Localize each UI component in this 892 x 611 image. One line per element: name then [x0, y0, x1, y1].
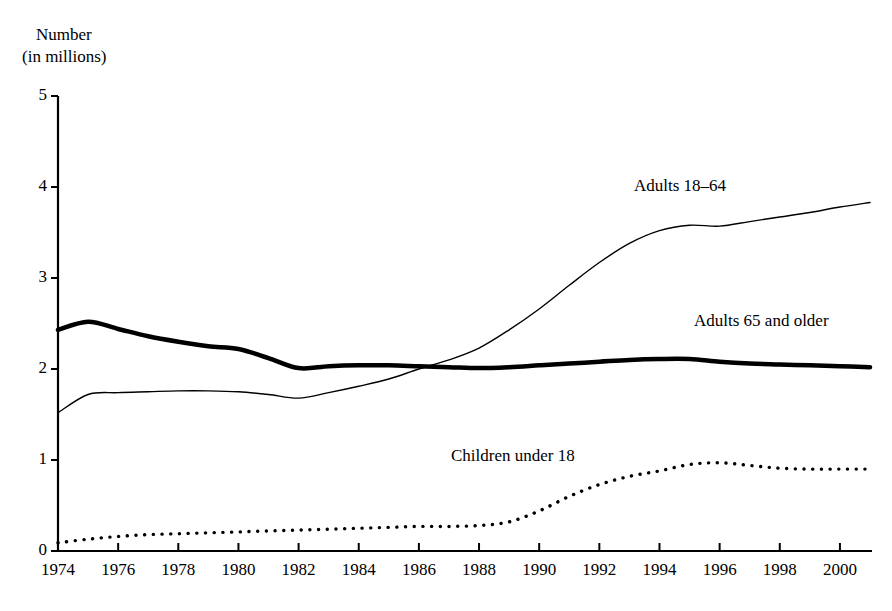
- y-tick-label: 2: [25, 358, 47, 378]
- x-tick-label: 1974: [29, 560, 87, 580]
- chart-figure: Number (in millions) 543210 197419761978…: [0, 0, 892, 611]
- y-tick-label: 5: [25, 85, 47, 105]
- x-tick-label: 1998: [751, 560, 809, 580]
- x-tick-label: 1994: [630, 560, 688, 580]
- x-tick-label: 2000: [811, 560, 869, 580]
- y-tick-label: 1: [25, 449, 47, 469]
- y-axis-title-line1: Number: [36, 24, 92, 45]
- x-tick-label: 1990: [510, 560, 568, 580]
- x-tick-label: 1986: [390, 560, 448, 580]
- series-line-adults-18-64: [58, 202, 870, 412]
- y-tick-label: 4: [25, 176, 47, 196]
- x-tick-label: 1992: [570, 560, 628, 580]
- x-tick-label: 1988: [450, 560, 508, 580]
- y-tick-label: 0: [25, 540, 47, 560]
- x-tick-label: 1980: [209, 560, 267, 580]
- series-label-adults-18-64: Adults 18–64: [634, 176, 726, 196]
- x-tick-label: 1996: [691, 560, 749, 580]
- series-label-children-under-18: Children under 18: [451, 446, 575, 466]
- x-tick-label: 1976: [89, 560, 147, 580]
- series-line-children-under-18: [58, 463, 870, 543]
- x-tick-label: 1982: [270, 560, 328, 580]
- series-label-adults-65-and-older: Adults 65 and older: [694, 311, 829, 331]
- x-tick-label: 1984: [330, 560, 388, 580]
- x-axis-ticks: [58, 543, 840, 551]
- plot-area: [0, 0, 892, 611]
- x-tick-label: 1978: [149, 560, 207, 580]
- series-group: [58, 202, 870, 542]
- y-tick-label: 3: [25, 267, 47, 287]
- y-axis-title-line2: (in millions): [22, 46, 107, 67]
